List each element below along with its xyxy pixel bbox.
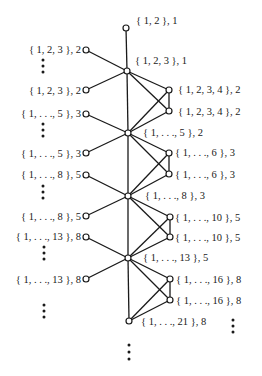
node-n0	[123, 25, 129, 31]
node-r3a	[167, 214, 173, 220]
edge-c4-l4b	[86, 258, 128, 279]
ellipsis-dot	[232, 331, 235, 334]
ellipsis-dot	[232, 319, 235, 322]
edge-c2-l2a	[86, 114, 128, 133]
edge-c4-r4b	[128, 258, 170, 300]
edge-c1-r1b	[127, 71, 169, 111]
edge-c4-l4a	[86, 237, 128, 258]
node-label: { 1, . . ., 13 }, 5	[143, 252, 208, 263]
node-label: { 1, . . ., 16 }, 8	[176, 274, 241, 285]
node-c1	[124, 68, 130, 74]
node-label: { 1, . . ., 16 }, 8	[176, 295, 241, 306]
lattice-diagram: { 1, 2 }, 1{ 1, 2, 3 }, 1{ 1, 2, 3 }, 2{…	[0, 0, 262, 376]
node-label: { 1, . . ., 5 }, 3	[21, 108, 81, 119]
node-label: { 1, . . ., 13 }, 8	[16, 231, 81, 242]
node-r3b	[167, 234, 173, 240]
edge-c3-r3b	[128, 196, 170, 237]
node-label: { 1, . . ., 6 }, 3	[175, 147, 235, 158]
node-r4a	[167, 276, 173, 282]
node-l2a	[83, 111, 89, 117]
edge-c1-l1a	[86, 50, 127, 71]
node-c4	[125, 255, 131, 261]
node-label: { 1, . . ., 5 }, 2	[143, 127, 203, 138]
node-label: { 1, 2, 3, 4 }, 2	[178, 84, 241, 95]
ellipsis-dot	[42, 129, 45, 132]
ellipsis-dot	[128, 344, 131, 347]
node-c2	[125, 130, 131, 136]
node-label: { 1, 2, 3 }, 2	[29, 85, 81, 96]
edge-c2-l2b	[86, 133, 128, 153]
node-r1a	[166, 87, 172, 93]
node-r1b	[166, 108, 172, 114]
edge-c1-c2	[127, 71, 128, 133]
node-label: { 1, 2, 3 }, 1	[135, 55, 187, 66]
node-c5	[126, 318, 132, 324]
edge-c4-c5	[128, 258, 129, 321]
edge-c3-l3a	[86, 175, 128, 196]
edge-c5-r4a	[129, 279, 170, 321]
ellipsis-dot	[42, 65, 45, 68]
node-label: { 1, . . ., 21 }, 8	[141, 316, 206, 327]
edge-c1-l1b	[86, 71, 127, 90]
ellipsis-dot	[42, 191, 45, 194]
ellipsis-dot	[43, 246, 46, 249]
ellipsis-dot	[43, 252, 46, 255]
ellipsis-dot	[128, 351, 131, 354]
node-label: { 1, . . ., 8 }, 5	[21, 169, 81, 180]
node-label: { 1, 2, 3 }, 2	[29, 44, 81, 55]
node-label: { 1, . . ., 10 }, 5	[175, 212, 240, 223]
ellipsis-dot	[42, 135, 45, 138]
edge-c3-l3b	[86, 196, 128, 216]
ellipsis-dot	[43, 310, 46, 313]
ellipsis-dot	[232, 325, 235, 328]
node-label: { 1, . . ., 5 }, 3	[21, 148, 81, 159]
node-label: { 1, . . ., 6 }, 3	[175, 169, 235, 180]
ellipsis-dot	[42, 59, 45, 62]
ellipsis-dot	[42, 123, 45, 126]
node-l2b	[83, 150, 89, 156]
node-label: { 1, 2, 3, 4 }, 2	[178, 106, 241, 117]
node-l1a	[83, 47, 89, 53]
node-label: { 1, 2 }, 1	[136, 15, 178, 26]
ellipsis-dot	[43, 304, 46, 307]
node-c3	[125, 193, 131, 199]
ellipsis-dot	[43, 316, 46, 319]
edge-n0-c1	[126, 28, 127, 71]
node-l4b	[83, 276, 89, 282]
node-l3b	[83, 213, 89, 219]
node-label: { 1, . . ., 13 }, 8	[16, 274, 81, 285]
node-r4b	[167, 297, 173, 303]
node-l3a	[83, 172, 89, 178]
node-label: { 1, . . ., 8 }, 5	[21, 211, 81, 222]
edge-c2-r2b	[128, 133, 169, 174]
node-label: { 1, . . ., 10 }, 5	[175, 232, 240, 243]
node-r2a	[166, 150, 172, 156]
ellipsis-dot	[43, 258, 46, 261]
ellipsis-dot	[42, 185, 45, 188]
edge-c1-r1a	[127, 71, 169, 90]
node-label: { 1, . . ., 8 }, 3	[145, 190, 205, 201]
ellipsis-dot	[128, 358, 131, 361]
node-r2b	[166, 171, 172, 177]
ellipsis-dot	[42, 197, 45, 200]
node-l1b	[83, 87, 89, 93]
node-l4a	[83, 234, 89, 240]
ellipsis-dot	[42, 71, 45, 74]
